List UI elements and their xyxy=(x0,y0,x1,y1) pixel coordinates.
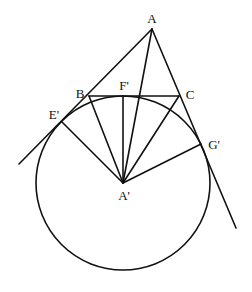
segment-b-a-prime xyxy=(89,96,123,183)
label-g-prime: G' xyxy=(208,137,220,152)
label-a-prime: A' xyxy=(118,188,130,203)
line-ac-extended xyxy=(152,29,236,228)
radius-a-prime-e-prime xyxy=(62,122,123,183)
label-b: B xyxy=(76,86,85,101)
label-a: A xyxy=(147,11,157,26)
geometry-diagram: A B C F' E' G' A' xyxy=(0,0,252,292)
label-f-prime: F' xyxy=(119,78,129,93)
label-c: C xyxy=(186,87,195,102)
label-e-prime: E' xyxy=(49,107,59,122)
